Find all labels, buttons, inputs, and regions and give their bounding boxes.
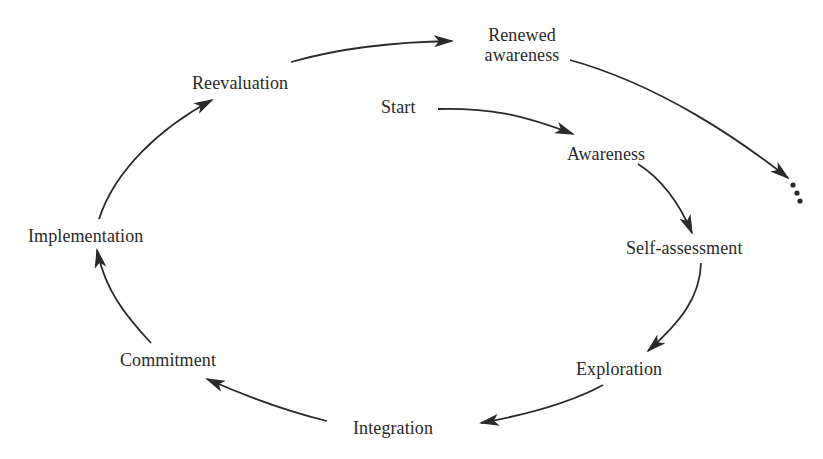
node-self-assessment: Self-assessment	[626, 238, 742, 258]
node-renewed-awareness-line1: Renewed	[472, 25, 572, 45]
node-reevaluation: Reevaluation	[192, 73, 288, 93]
arrow-exploration-to-integration	[481, 385, 603, 423]
continuation-ellipsis-icon	[790, 182, 802, 203]
node-integration: Integration	[353, 418, 433, 438]
node-renewed-awareness: Renewed awareness	[472, 25, 572, 65]
node-implementation: Implementation	[28, 226, 143, 246]
node-start: Start	[381, 97, 416, 117]
cycle-diagram: Start Awareness Self-assessment Explorat…	[0, 0, 823, 459]
arrow-commitment-to-implementation	[97, 250, 151, 343]
arrow-awareness-to-self-assessment	[638, 164, 692, 233]
arrow-implementation-to-reevaluation	[99, 100, 212, 219]
node-awareness: Awareness	[567, 144, 645, 164]
arrow-integration-to-commitment	[207, 379, 327, 421]
arrow-reevaluation-to-renewed-awareness	[291, 41, 452, 62]
node-commitment: Commitment	[120, 350, 216, 370]
node-renewed-awareness-line2: awareness	[472, 45, 572, 65]
node-exploration: Exploration	[576, 359, 662, 379]
arrow-start-to-awareness	[438, 109, 573, 134]
arrow-self-assessment-to-exploration	[648, 263, 701, 351]
